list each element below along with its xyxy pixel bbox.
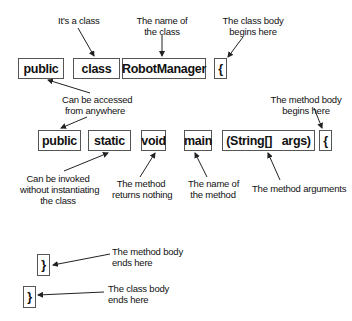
label-method-body-ends: The method body ends here [112, 246, 182, 268]
arrow-class-body-ends [38, 292, 104, 295]
token-class-open-brace: { [214, 58, 227, 79]
token-method-open-brace: { [319, 130, 332, 151]
label-class-body-begins: The class body begins here [218, 15, 288, 37]
token-method-args: (String[] args) [222, 130, 315, 151]
token-public-class: public [18, 58, 64, 79]
label-class-name: The name of the class [130, 15, 194, 37]
label-class-body-ends: The class body ends here [108, 283, 178, 305]
arrows-layer [0, 0, 352, 321]
label-method-name: The name of the method [188, 178, 238, 200]
token-robotmanager: RobotManager [122, 58, 206, 79]
arrow-its-a-class [78, 28, 94, 56]
arrow-method-name [195, 153, 207, 177]
arrow-invoked [64, 153, 108, 171]
label-invoked-without-instantiating: Can be invoked without instantiating the… [20, 173, 96, 206]
arrow-accessed-row1 [48, 80, 90, 93]
arrow-method-args [268, 153, 280, 180]
label-method-arguments: The method arguments [252, 183, 334, 194]
token-method-close-brace: } [37, 254, 50, 276]
arrow-class-body-begins [228, 37, 243, 57]
token-class-close-brace: } [23, 286, 36, 308]
arrow-returns [140, 153, 155, 177]
label-accessed-anywhere: Can be accessed from anywhere [62, 94, 128, 116]
arrow-accessed-row2 [61, 117, 87, 128]
token-main: main [184, 130, 212, 151]
token-public-method: public [38, 130, 81, 151]
token-void: void [141, 130, 166, 151]
label-returns-nothing: The method returns nothing [112, 178, 170, 200]
token-static: static [88, 130, 131, 151]
label-its-a-class: It's a class [58, 15, 98, 26]
label-method-body-begins: The method body begins here [270, 94, 342, 116]
arrow-method-body-ends [53, 254, 110, 265]
token-class: class [73, 58, 120, 79]
